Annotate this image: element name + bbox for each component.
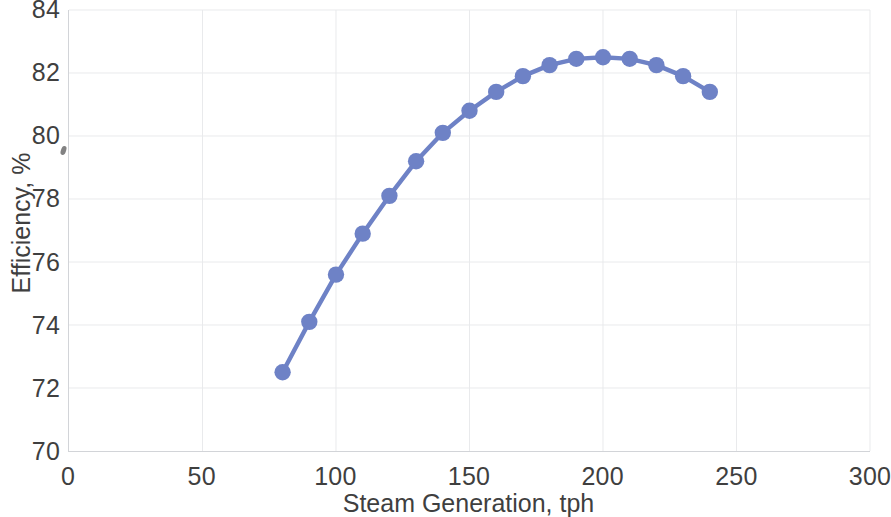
plot-area bbox=[68, 10, 870, 452]
data-point bbox=[301, 314, 317, 330]
data-series-efficiency bbox=[69, 10, 870, 451]
stray-ink-mark bbox=[60, 145, 68, 155]
data-point bbox=[328, 266, 344, 282]
data-point bbox=[702, 84, 718, 100]
data-point bbox=[381, 188, 397, 204]
data-point bbox=[274, 364, 290, 380]
data-point bbox=[515, 68, 531, 84]
data-point bbox=[435, 125, 451, 141]
x-axis-tick-label: 250 bbox=[715, 464, 757, 489]
data-point bbox=[408, 153, 424, 169]
x-axis-tick-label: 50 bbox=[188, 464, 216, 489]
y-axis-tick-label: 72 bbox=[4, 376, 60, 401]
x-axis-tick-label: 0 bbox=[61, 464, 75, 489]
x-axis-title: Steam Generation, tph bbox=[0, 490, 887, 516]
x-axis-tick-label: 150 bbox=[448, 464, 490, 489]
data-point bbox=[648, 57, 664, 73]
data-point bbox=[488, 84, 504, 100]
data-point bbox=[541, 57, 557, 73]
x-axis-tick-label: 200 bbox=[582, 464, 624, 489]
data-point bbox=[461, 103, 477, 119]
x-axis-tick-label: 300 bbox=[849, 464, 891, 489]
y-axis-tick-label: 84 bbox=[4, 0, 60, 22]
data-point bbox=[568, 51, 584, 67]
y-axis-title: Efficiency, % bbox=[8, 108, 34, 338]
series-line bbox=[283, 57, 710, 372]
data-point bbox=[595, 49, 611, 65]
y-axis-tick-label: 70 bbox=[4, 439, 60, 464]
data-point bbox=[675, 68, 691, 84]
y-axis-tick-label: 82 bbox=[4, 60, 60, 85]
data-point bbox=[355, 225, 371, 241]
x-axis-title-text: Steam Generation, tph bbox=[343, 490, 595, 516]
data-point bbox=[622, 51, 638, 67]
x-axis-tick-label: 100 bbox=[314, 464, 356, 489]
